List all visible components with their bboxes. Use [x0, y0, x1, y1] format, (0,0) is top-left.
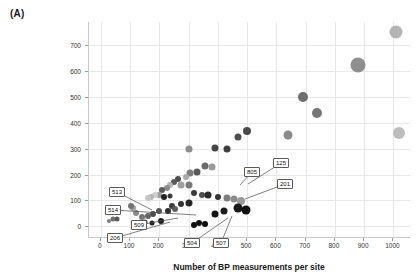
y-tick-label: 100 [51, 197, 81, 204]
data-point [158, 218, 164, 224]
x-tick-mark [305, 238, 306, 241]
data-point [107, 219, 111, 223]
data-point [393, 127, 405, 139]
gridline-vertical [335, 22, 336, 237]
x-tick-mark [158, 238, 159, 241]
data-point [185, 182, 192, 189]
data-point [156, 208, 162, 214]
annotation-callout: 206 [107, 233, 123, 243]
y-tick-mark [85, 97, 88, 98]
data-point [201, 163, 208, 170]
data-point [178, 201, 184, 207]
gridline-vertical [306, 22, 307, 237]
gridline-vertical [364, 22, 365, 237]
data-point [223, 195, 230, 202]
x-tick-label: 600 [260, 242, 290, 249]
gridline-horizontal [89, 71, 410, 72]
x-tick-label: 0 [85, 242, 115, 249]
data-point [172, 206, 178, 212]
data-point [202, 221, 208, 227]
y-tick-label: 500 [51, 94, 81, 101]
annotation-callout: 504 [184, 238, 200, 248]
data-point [167, 193, 172, 198]
data-point [215, 194, 221, 200]
x-tick-mark [363, 238, 364, 241]
data-point [145, 213, 151, 219]
plot-area [88, 22, 410, 238]
y-tick-mark [85, 123, 88, 124]
data-point [211, 210, 218, 217]
x-tick-label: 500 [231, 242, 261, 249]
data-point [390, 25, 403, 38]
data-point [161, 194, 167, 200]
data-point [185, 145, 192, 152]
y-tick-label: 400 [51, 119, 81, 126]
x-axis-title: Number of BP measurements per site [88, 262, 410, 272]
gridline-horizontal [89, 97, 410, 98]
data-point [208, 164, 215, 171]
y-tick-label: 300 [51, 145, 81, 152]
x-tick-label: 200 [143, 242, 173, 249]
gridline-horizontal [89, 123, 410, 124]
gridline-horizontal [89, 149, 410, 150]
data-point [194, 168, 201, 175]
annotation-callout: 201 [277, 179, 293, 189]
x-tick-label: 700 [290, 242, 320, 249]
data-point [204, 192, 211, 199]
panel-label: (A) [10, 8, 24, 19]
y-tick-mark [85, 175, 88, 176]
data-point [351, 57, 366, 72]
data-point [298, 92, 308, 102]
data-point [149, 220, 154, 225]
gridline-vertical [276, 22, 277, 237]
data-point [223, 145, 230, 152]
data-point [128, 203, 134, 209]
x-tick-mark [334, 238, 335, 241]
gridline-vertical [159, 22, 160, 237]
y-tick-label: 700 [51, 42, 81, 49]
x-tick-mark [246, 238, 247, 241]
x-tick-mark [100, 238, 101, 241]
data-point [191, 190, 197, 196]
data-point [284, 130, 293, 139]
y-tick-mark [85, 45, 88, 46]
x-tick-label: 100 [114, 242, 144, 249]
data-point [220, 208, 227, 215]
gridline-horizontal [89, 200, 410, 201]
annotation-callout: 507 [213, 238, 229, 248]
data-point [243, 127, 251, 135]
x-tick-label: 900 [348, 242, 378, 249]
x-tick-mark [392, 238, 393, 241]
gridline-vertical [218, 22, 219, 237]
data-point [191, 222, 197, 228]
data-point [150, 211, 156, 217]
annotation-callout: 513 [109, 187, 125, 197]
data-point [241, 206, 250, 215]
x-tick-mark [275, 238, 276, 241]
annotation-callout: 514 [105, 205, 121, 215]
data-point [235, 134, 242, 141]
y-tick-mark [85, 200, 88, 201]
data-point [312, 108, 322, 118]
data-point [185, 199, 192, 206]
y-tick-label: 200 [51, 171, 81, 178]
data-point [178, 181, 185, 188]
data-point [211, 145, 218, 152]
annotation-callout: 125 [273, 158, 289, 168]
y-tick-mark [85, 71, 88, 72]
y-tick-mark [85, 149, 88, 150]
annotation-callout: 509 [131, 220, 147, 230]
data-point [133, 210, 139, 216]
x-tick-mark [129, 238, 130, 241]
data-point [183, 174, 189, 180]
gridline-vertical [101, 22, 102, 237]
y-tick-mark [85, 226, 88, 227]
figure-panel-a: (A) 010020030040050060070001002003004005… [0, 0, 418, 277]
data-point [165, 208, 171, 214]
y-tick-label: 600 [51, 68, 81, 75]
data-point [145, 195, 151, 201]
annotation-callout: 805 [244, 167, 260, 177]
x-tick-label: 800 [319, 242, 349, 249]
x-tick-label: 1000 [377, 242, 407, 249]
y-tick-label: 0 [51, 223, 81, 230]
